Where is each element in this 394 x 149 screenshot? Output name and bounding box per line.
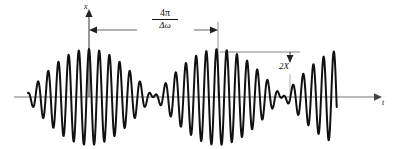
plot-canvas xyxy=(0,0,394,149)
dimension-arrowhead-left xyxy=(89,26,97,33)
dimension-arrowhead-right xyxy=(210,26,218,33)
label-beat-period: 4π Δω xyxy=(135,8,195,30)
beat-period-numerator: 4π xyxy=(135,8,195,18)
axis-label-x: x xyxy=(84,3,88,11)
figure-waveform-beats: x t 2X 4π Δω xyxy=(0,0,394,149)
label-envelope-amplitude: 2X xyxy=(279,62,289,71)
t-axis-arrowhead xyxy=(374,93,382,101)
beat-period-denominator: Δω xyxy=(135,21,195,30)
axis-label-t: t xyxy=(382,99,384,107)
